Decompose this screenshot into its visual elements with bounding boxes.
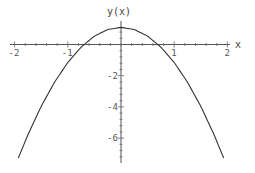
y-axis-label: y(x): [107, 6, 131, 17]
x-tick-label: -2: [9, 48, 20, 58]
tick-marks: [15, 32, 228, 157]
axes: [10, 21, 230, 163]
x-tick-label: 2: [224, 48, 229, 58]
tick-labels: -2-112-2-4-6: [9, 48, 230, 144]
x-axis-label: x: [235, 39, 241, 50]
x-tick-label: 1: [171, 48, 176, 58]
y-tick-label: -2: [107, 71, 118, 81]
y-tick-label: -6: [107, 133, 118, 143]
plot: -2-112-2-4-6 x y(x): [0, 0, 255, 173]
x-tick-label: -1: [62, 48, 73, 58]
y-tick-label: -4: [107, 102, 118, 112]
